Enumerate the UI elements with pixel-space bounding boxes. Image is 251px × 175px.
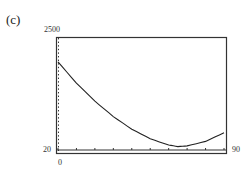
plot-area (0, 0, 251, 175)
plot-frame (57, 38, 227, 154)
data-curve (58, 62, 224, 147)
